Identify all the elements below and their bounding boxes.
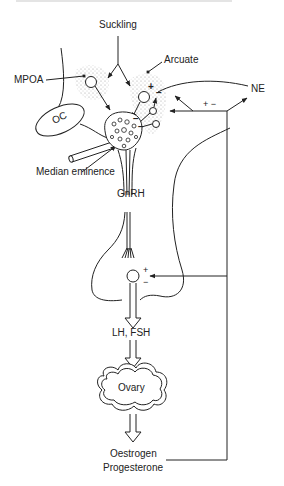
hollow-arrow-steroids	[125, 414, 141, 442]
sign-median-minus-2: −	[138, 121, 144, 132]
label-ovary: Ovary	[118, 382, 145, 394]
sign-arcuate-plus: +	[148, 81, 154, 92]
label-ne: NE	[251, 83, 265, 95]
hollow-arrow-lh	[125, 300, 141, 328]
ne-arrow-up-right	[227, 98, 247, 111]
label-arcuate: Arcuate	[164, 54, 198, 66]
pituitary-outline	[92, 212, 125, 301]
label-suckling: Suckling	[99, 19, 137, 31]
sign-pituitary-minus: −	[143, 277, 148, 287]
gonadotroph-cell	[127, 270, 139, 282]
label-oestrogen: Oestrogen	[110, 448, 157, 460]
arcuate-neuron-main	[139, 92, 150, 103]
label-gnrh: GnRH	[117, 188, 145, 200]
ne-curve	[158, 81, 248, 92]
sign-arcuate-minus: −	[156, 87, 162, 98]
portal-fan	[122, 248, 134, 258]
sign-pituitary-plus: +	[143, 265, 148, 275]
ne-arrow-up-left	[175, 96, 193, 111]
label-mpoa: MPOA	[14, 74, 43, 86]
brain-right-outline	[140, 128, 230, 300]
oc-connector	[80, 124, 108, 138]
diagram-canvas: + − − − + − + −	[0, 0, 284, 486]
label-median-eminence: Median eminence	[36, 166, 115, 178]
sign-ne-plus-minus: + −	[203, 99, 216, 109]
arcuate-pointer	[148, 62, 162, 72]
suckling-branch-left	[108, 64, 118, 78]
suckling-branch-right	[118, 64, 130, 86]
arcuate-neuron-3	[153, 121, 160, 128]
mpoa-neuron	[86, 77, 97, 88]
arcuate-neuron-2	[150, 108, 157, 115]
label-progesterone: Progesterone	[103, 462, 163, 474]
label-lh-fsh: LH, FSH	[112, 327, 150, 339]
